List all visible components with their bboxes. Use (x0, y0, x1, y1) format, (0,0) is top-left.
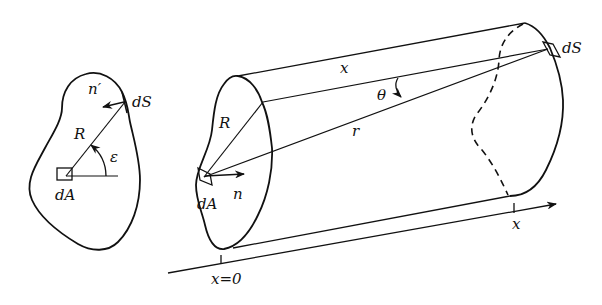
label-da-left: dA (55, 186, 76, 204)
label-r-radial: r (352, 122, 360, 140)
da-area-element-box (57, 168, 72, 180)
label-x-origin: x=0 (211, 270, 242, 288)
epsilon-angle-arc (91, 145, 106, 176)
x-axis-line (168, 204, 556, 273)
label-theta: θ (377, 86, 386, 104)
cylinder-top-edge (238, 23, 525, 76)
label-r-left: R (73, 125, 85, 143)
label-ds-right: dS (562, 39, 582, 57)
theta-angle-arc (396, 78, 401, 97)
label-epsilon: ε (110, 148, 118, 166)
r-radial-line (204, 49, 548, 177)
label-da-right: dA (197, 195, 218, 213)
right-panel: x θ r R dS n dA x=0 x (168, 23, 582, 288)
label-ds-left: dS (132, 93, 152, 111)
label-n: n (233, 185, 243, 203)
x-distance-line (263, 49, 548, 102)
cylinder-bottom-edge (233, 196, 510, 248)
cylinder-left-cross-section (196, 76, 272, 249)
label-r-right: R (218, 114, 230, 132)
diagram-canvas: n′ dS R ε dA (0, 0, 602, 305)
label-x-top: x (340, 59, 349, 77)
label-x-position: x (512, 215, 521, 233)
label-n-prime: n′ (88, 80, 102, 98)
left-panel: n′ dS R ε dA (29, 73, 152, 250)
cylinder-right-cross-section-dashed (472, 24, 523, 195)
